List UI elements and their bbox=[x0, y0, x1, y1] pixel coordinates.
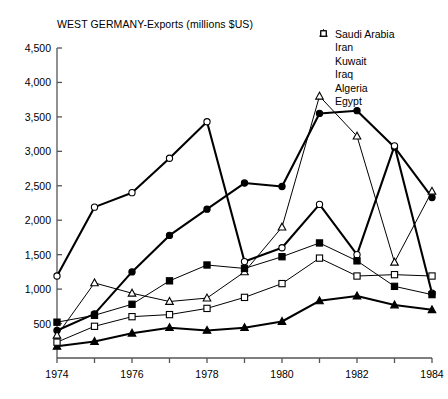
y-tick-label: 3,000 bbox=[17, 145, 51, 157]
data-point-marker bbox=[204, 305, 210, 311]
chart-legend: Saudi ArabiaIranKuwaitIraqAlgeriaEgypt bbox=[318, 28, 395, 108]
data-point-marker bbox=[428, 187, 436, 194]
legend-item-label: Iraq bbox=[335, 68, 353, 81]
legend-item-label: Saudi Arabia bbox=[335, 28, 395, 41]
data-point-marker bbox=[391, 272, 397, 278]
data-point-marker bbox=[241, 258, 247, 264]
data-point-marker bbox=[279, 280, 285, 286]
data-point-marker bbox=[54, 319, 60, 325]
x-tick-label: 1978 bbox=[187, 368, 227, 380]
y-tick-label: 3,500 bbox=[17, 111, 51, 123]
data-point-marker bbox=[391, 258, 399, 265]
x-tick-label: 1982 bbox=[337, 368, 377, 380]
data-point-marker bbox=[204, 206, 210, 212]
y-tick-label: 1,000 bbox=[17, 283, 51, 295]
x-tick-label: 1980 bbox=[262, 368, 302, 380]
data-point-marker bbox=[129, 190, 135, 196]
data-point-marker bbox=[241, 265, 247, 271]
data-point-marker bbox=[316, 240, 322, 246]
data-point-marker bbox=[166, 311, 172, 317]
data-point-marker bbox=[279, 183, 285, 189]
data-point-marker bbox=[316, 110, 322, 116]
y-tick-label: 500 bbox=[17, 318, 51, 330]
x-tick-label: 1974 bbox=[37, 368, 77, 380]
data-point-marker bbox=[91, 323, 97, 329]
data-point-marker bbox=[391, 283, 397, 289]
data-point-marker bbox=[429, 292, 435, 298]
data-point-marker bbox=[316, 255, 322, 261]
data-point-marker bbox=[166, 232, 172, 238]
legend-item-algeria[interactable]: Algeria bbox=[318, 82, 395, 95]
data-point-marker bbox=[166, 278, 172, 284]
y-tick-label: 1,500 bbox=[17, 249, 51, 261]
data-point-marker bbox=[241, 294, 247, 300]
legend-item-saudi-arabia[interactable]: Saudi Arabia bbox=[318, 28, 395, 41]
y-axis-ticks bbox=[57, 48, 62, 324]
legend-item-iraq[interactable]: Iraq bbox=[318, 68, 395, 81]
x-tick-label: 1984 bbox=[412, 368, 448, 380]
data-point-marker bbox=[203, 294, 211, 301]
legend-item-label: Egypt bbox=[335, 95, 362, 108]
data-point-marker bbox=[391, 143, 397, 149]
data-point-marker bbox=[54, 273, 60, 279]
data-point-marker bbox=[354, 108, 360, 114]
open-square-icon bbox=[318, 28, 329, 39]
legend-item-label: Kuwait bbox=[335, 55, 367, 68]
data-point-marker bbox=[354, 252, 360, 258]
data-point-marker bbox=[316, 201, 322, 207]
data-point-marker bbox=[91, 279, 99, 286]
data-point-marker bbox=[354, 273, 360, 279]
data-point-marker bbox=[279, 254, 285, 260]
data-point-marker bbox=[129, 269, 135, 275]
data-point-marker bbox=[54, 339, 60, 345]
data-point-marker bbox=[429, 273, 435, 279]
data-point-marker bbox=[354, 258, 360, 264]
legend-item-egypt[interactable]: Egypt bbox=[318, 95, 395, 108]
legend-item-iran[interactable]: Iran bbox=[318, 41, 395, 54]
data-point-marker bbox=[278, 223, 286, 230]
data-point-marker bbox=[91, 312, 97, 318]
chart-series bbox=[54, 240, 435, 325]
data-point-marker bbox=[241, 180, 247, 186]
y-tick-label: 2,500 bbox=[17, 180, 51, 192]
y-tick-label: 4,500 bbox=[17, 42, 51, 54]
data-point-marker bbox=[91, 204, 97, 210]
data-point-marker bbox=[129, 301, 135, 307]
x-axis-ticks bbox=[57, 358, 432, 363]
x-tick-label: 1976 bbox=[112, 368, 152, 380]
data-point-marker bbox=[204, 119, 210, 125]
legend-item-label: Algeria bbox=[335, 82, 368, 95]
legend-item-kuwait[interactable]: Kuwait bbox=[318, 55, 395, 68]
y-tick-label: 2,000 bbox=[17, 214, 51, 226]
legend-item-label: Iran bbox=[335, 41, 353, 54]
data-point-marker bbox=[166, 155, 172, 161]
y-tick-label: 4,000 bbox=[17, 76, 51, 88]
data-point-marker bbox=[279, 245, 285, 251]
data-point-marker bbox=[129, 314, 135, 320]
data-point-marker bbox=[204, 262, 210, 268]
